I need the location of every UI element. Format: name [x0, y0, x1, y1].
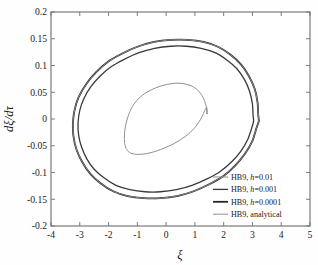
x-tick-label: 0	[164, 229, 169, 240]
x-tick-label: 5	[308, 229, 313, 240]
legend-label-3: HB9, analytical	[231, 210, 283, 219]
y-tick-label: 0.15	[30, 33, 47, 44]
legend-label-0: HB9, h=0.01	[231, 173, 273, 182]
x-tick-label: 3	[250, 229, 255, 240]
figure-container: -4-3-2-1012345 0.20.150.10.050-0.05-0.1-…	[0, 0, 318, 265]
x-tick-label: -1	[133, 229, 141, 240]
y-tick-label: -0.05	[27, 140, 47, 151]
legend-label-1: HB9, h=0.001	[231, 185, 277, 194]
y-tick-label: 0.1	[35, 60, 47, 71]
y-tick-label: -0.1	[32, 167, 47, 178]
x-tick-label: -4	[47, 229, 55, 240]
phase-portrait-chart: -4-3-2-1012345 0.20.150.10.050-0.05-0.1-…	[0, 0, 318, 265]
y-tick-label: -0.2	[32, 220, 47, 231]
y-axis-label: dξ/dτ	[2, 106, 16, 132]
legend-label-2: HB9, h=0.0001	[231, 198, 281, 207]
x-tick-label: 1	[192, 229, 197, 240]
y-tick-label: 0.05	[30, 87, 47, 98]
x-tick-label: -3	[76, 229, 84, 240]
x-tick-label: -2	[105, 229, 113, 240]
x-tick-label: 2	[221, 229, 226, 240]
x-axis-label: ξ	[177, 248, 183, 262]
y-tick-label: -0.15	[27, 194, 47, 205]
x-tick-label: 4	[279, 229, 284, 240]
y-tick-label: 0.2	[35, 6, 47, 17]
y-tick-label: 0	[42, 113, 47, 124]
